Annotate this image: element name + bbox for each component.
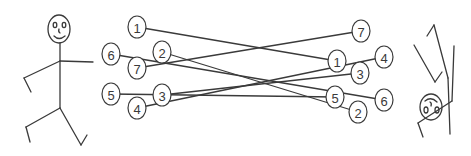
node-label: 4 xyxy=(133,102,140,117)
right-node-5: 5 xyxy=(326,86,344,108)
node-label: 6 xyxy=(107,48,114,63)
right-node-7: 7 xyxy=(352,20,370,42)
diagram-canvas: 1627534 7143562 xyxy=(0,0,471,156)
right-stick-figure-icon xyxy=(414,25,454,137)
right-node-1: 1 xyxy=(328,50,346,72)
right-node-6: 6 xyxy=(375,89,393,111)
left-node-4: 4 xyxy=(128,97,146,119)
left-node-2: 2 xyxy=(153,41,171,63)
left-node-3: 3 xyxy=(153,84,171,106)
left-stick-figure-icon xyxy=(24,15,93,145)
right-node-4: 4 xyxy=(375,46,393,68)
node-label: 4 xyxy=(380,51,387,66)
node-label: 5 xyxy=(107,88,114,103)
node-label: 7 xyxy=(357,25,364,40)
node-label: 6 xyxy=(380,94,387,109)
node-label: 7 xyxy=(133,62,140,77)
left-node-1: 1 xyxy=(128,16,146,38)
node-label: 2 xyxy=(158,46,165,61)
node-label: 5 xyxy=(331,91,338,106)
node-label: 3 xyxy=(356,67,363,82)
left-node-7: 7 xyxy=(128,57,146,79)
node-label: 3 xyxy=(158,89,165,104)
right-node-3: 3 xyxy=(351,62,369,84)
left-node-6: 6 xyxy=(102,43,120,65)
matching-diagram: 1627534 7143562 xyxy=(0,0,471,156)
node-label: 2 xyxy=(354,106,361,121)
left-node-5: 5 xyxy=(102,83,120,105)
node-label: 1 xyxy=(333,55,340,70)
node-label: 1 xyxy=(133,21,140,36)
right-node-2: 2 xyxy=(349,101,367,123)
